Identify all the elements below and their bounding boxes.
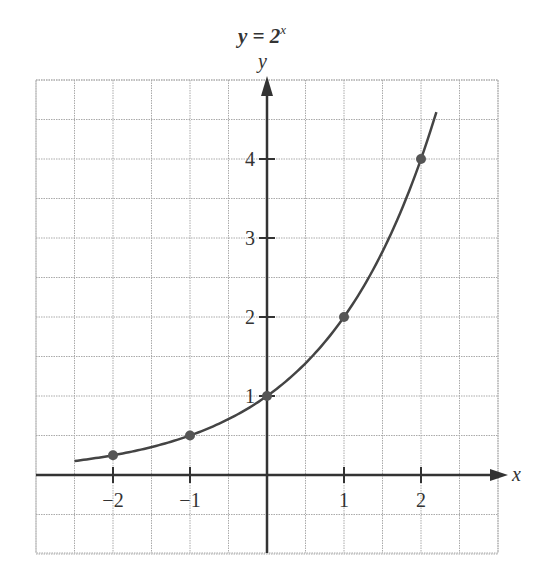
y-tick-label: 3 bbox=[245, 227, 255, 249]
ticks: −2−1121234 bbox=[102, 148, 426, 511]
y-tick-label: 4 bbox=[245, 148, 255, 170]
y-axis-arrow-icon bbox=[261, 76, 273, 96]
x-tick-label: −2 bbox=[102, 489, 123, 511]
chart-title: y = 2x bbox=[235, 22, 286, 48]
data-point bbox=[185, 431, 195, 441]
exponential-graph: −2−1121234 x y y = 2x bbox=[0, 0, 547, 570]
x-tick-label: 2 bbox=[416, 489, 426, 511]
title-main: y = 2 bbox=[235, 24, 281, 48]
x-tick-label: 1 bbox=[339, 489, 349, 511]
x-axis-label: x bbox=[511, 463, 521, 485]
axes bbox=[36, 76, 508, 553]
x-axis-arrow-icon bbox=[490, 469, 508, 481]
data-point bbox=[262, 391, 272, 401]
y-tick-label: 2 bbox=[245, 306, 255, 328]
data-point bbox=[416, 154, 426, 164]
data-point bbox=[339, 312, 349, 322]
data-point bbox=[108, 450, 118, 460]
y-axis-label: y bbox=[256, 50, 267, 73]
x-tick-label: −1 bbox=[179, 489, 200, 511]
title-exponent: x bbox=[279, 22, 286, 37]
